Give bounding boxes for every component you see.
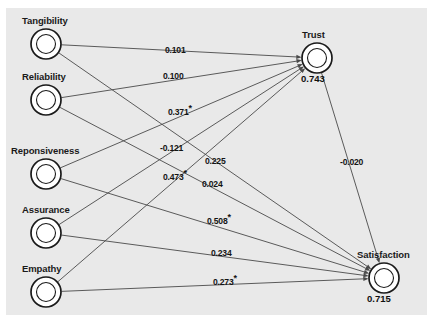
node-inner-ring-satisfaction	[375, 269, 394, 288]
node-label-empathy: Empathy	[22, 263, 61, 274]
edge-coefficient-tangibility-satisfaction: 0.225	[205, 156, 226, 166]
node-assurance[interactable]	[31, 218, 61, 248]
coefficient-value-reliability-satisfaction: 0.024	[202, 179, 223, 189]
node-r-squared-satisfaction: 0.715	[367, 293, 391, 304]
significance-star-empathy-satisfaction: *	[234, 273, 237, 283]
coefficient-value-assurance-satisfaction: 0.234	[211, 248, 232, 258]
edge-coefficient-reponsiveness-trust: 0.371*	[168, 107, 192, 117]
arrowhead-assurance-satisfaction	[363, 273, 368, 277]
coefficient-value-tangibility-satisfaction: 0.225	[205, 156, 226, 166]
node-label-reponsiveness: Reponsiveness	[11, 145, 79, 156]
edge-coefficient-reliability-trust: 0.100	[163, 71, 184, 81]
edge-coefficient-tangibility-trust: 0.101	[165, 45, 186, 55]
node-inner-ring-reliability	[37, 91, 56, 110]
edge-coefficient-reponsiveness-satisfaction: 0.508*	[207, 216, 231, 226]
coefficient-value-trust-satisfaction: -0.020	[340, 157, 363, 167]
coefficient-value-empathy-trust: 0.473	[163, 172, 184, 182]
edge-coefficient-assurance-trust: -0.121	[160, 143, 183, 153]
node-label-tangibility: Tangibility	[22, 15, 68, 26]
arrowhead-reliability-trust	[296, 59, 301, 63]
edge-coefficient-trust-satisfaction: -0.020	[340, 157, 363, 167]
coefficient-value-reponsiveness-trust: 0.371	[168, 107, 189, 117]
edge-coefficient-empathy-trust: 0.473*	[163, 172, 187, 182]
edge-coefficient-reliability-satisfaction: 0.024	[202, 179, 223, 189]
node-inner-ring-empathy	[37, 283, 56, 302]
arrowhead-tangibility-trust	[296, 55, 301, 59]
significance-star-empathy-trust: *	[184, 168, 187, 178]
node-label-reliability: Reliability	[22, 71, 66, 82]
edge-coefficient-assurance-satisfaction: 0.234	[211, 248, 232, 258]
coefficient-value-reliability-trust: 0.100	[163, 71, 184, 81]
node-inner-ring-reponsiveness	[37, 165, 56, 184]
node-label-trust: Trust	[302, 29, 325, 40]
node-satisfaction[interactable]	[369, 263, 399, 293]
edge-coefficient-empathy-satisfaction: 0.273*	[213, 277, 237, 287]
coefficient-value-reponsiveness-satisfaction: 0.508	[207, 216, 228, 226]
significance-star-reponsiveness-trust: *	[189, 103, 192, 113]
node-label-satisfaction: Satisfaction	[357, 249, 410, 260]
path-diagram-figure: TangibilityReliabilityReponsivenessAssur…	[0, 0, 433, 323]
node-reponsiveness[interactable]	[31, 159, 61, 189]
coefficient-value-assurance-trust: -0.121	[160, 143, 183, 153]
node-empathy[interactable]	[31, 277, 61, 307]
node-r-squared-trust: 0.743	[301, 73, 325, 84]
node-trust[interactable]	[302, 43, 332, 73]
node-inner-ring-tangibility	[37, 35, 56, 54]
coefficient-value-empathy-satisfaction: 0.273	[213, 277, 234, 287]
node-label-assurance: Assurance	[22, 204, 70, 215]
significance-star-reponsiveness-satisfaction: *	[228, 212, 231, 222]
arrowhead-empathy-satisfaction	[363, 277, 368, 281]
node-inner-ring-trust	[308, 49, 327, 68]
coefficient-value-tangibility-trust: 0.101	[165, 45, 186, 55]
node-reliability[interactable]	[31, 85, 61, 115]
node-tangibility[interactable]	[31, 29, 61, 59]
node-inner-ring-assurance	[37, 224, 56, 243]
